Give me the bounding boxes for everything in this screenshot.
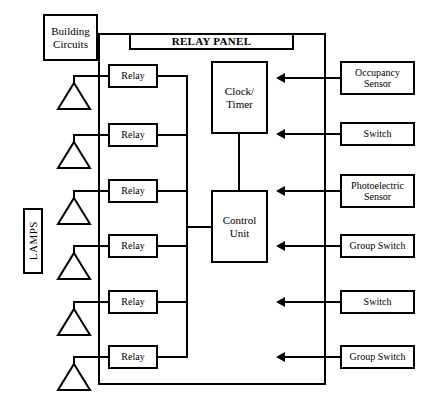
relay-box-5: Relay (108, 290, 158, 314)
lamp-triangle-2 (55, 139, 93, 171)
clock-timer-box: Clock/ Timer (211, 61, 268, 134)
relay-box-3: Relay (108, 179, 158, 203)
input-label-1: Occupancy Sensor (342, 67, 413, 90)
relay-label-2: Relay (121, 129, 144, 141)
control-unit-to-clock-timer (238, 133, 240, 191)
control-unit-box: Control Unit (211, 190, 268, 263)
clock-timer-label: Clock/ Timer (213, 85, 266, 110)
relay-panel-title: RELAY PANEL (172, 35, 252, 48)
input-arrow-3 (276, 186, 285, 196)
input-box-occupancy-sensor: Occupancy Sensor (340, 61, 415, 95)
input-feed-line-3 (283, 190, 340, 192)
input-box-group-switch-1: Group Switch (340, 234, 415, 258)
input-feed-line-2 (283, 133, 340, 135)
relay-box-4: Relay (108, 234, 158, 258)
input-feed-line-6 (283, 356, 340, 358)
lamp-triangle-4 (55, 250, 93, 282)
relay-bus-line-3 (157, 190, 187, 192)
input-feed-line-5 (283, 301, 340, 303)
input-arrow-4 (276, 241, 285, 251)
relay-bus-line-5 (157, 301, 187, 303)
building-circuits-label: Building Circuits (45, 25, 96, 50)
input-arrow-6 (276, 352, 285, 362)
relay-label-4: Relay (121, 240, 144, 252)
relay-bus-line-1 (157, 75, 187, 77)
input-label-6: Group Switch (350, 351, 406, 363)
relay-panel-diagram: Building Circuits RELAY PANEL LAMPS Cloc… (0, 0, 438, 412)
relay-box-1: Relay (108, 64, 158, 88)
relay-box-2: Relay (108, 123, 158, 147)
relay-label-5: Relay (121, 296, 144, 308)
input-arrow-2 (276, 129, 285, 139)
input-arrow-5 (276, 297, 285, 307)
lamp-connector-5 (74, 301, 109, 303)
lamps-label-box: LAMPS (23, 208, 43, 274)
lamp-connector-4 (74, 245, 109, 247)
relay-label-6: Relay (121, 351, 144, 363)
lamp-connector-6 (74, 356, 109, 358)
input-box-photoelectric-sensor: Photoelectric Sensor (340, 174, 415, 208)
lamp-connector-1 (74, 75, 109, 77)
lamp-connector-3 (74, 190, 109, 192)
lamp-triangle-3 (55, 195, 93, 227)
lamp-triangle-1 (55, 80, 93, 112)
lamp-connector-2 (74, 134, 109, 136)
input-label-4: Group Switch (350, 240, 406, 252)
relay-label-1: Relay (121, 70, 144, 82)
input-arrow-1 (276, 73, 285, 83)
relay-bus-line-2 (157, 134, 187, 136)
lamp-triangle-5 (55, 306, 93, 338)
input-box-switch-1: Switch (340, 122, 415, 146)
input-label-3: Photoelectric Sensor (342, 180, 413, 203)
relay-bus-line-4 (157, 245, 187, 247)
bus-to-control-unit (186, 226, 212, 228)
input-label-2: Switch (364, 128, 392, 140)
lamp-triangle-6 (55, 361, 93, 393)
relay-vertical-bus (186, 75, 188, 358)
input-label-5: Switch (364, 296, 392, 308)
control-unit-label: Control Unit (213, 214, 266, 239)
input-box-group-switch-2: Group Switch (340, 345, 415, 369)
relay-box-6: Relay (108, 345, 158, 369)
building-circuits-box: Building Circuits (43, 14, 98, 61)
input-box-switch-2: Switch (340, 290, 415, 314)
relay-panel-title-box: RELAY PANEL (129, 33, 294, 50)
relay-bus-line-6 (157, 356, 187, 358)
lamps-label: LAMPS (27, 221, 39, 260)
relay-label-3: Relay (121, 185, 144, 197)
input-feed-line-4 (283, 245, 340, 247)
input-feed-line-1 (283, 77, 340, 79)
